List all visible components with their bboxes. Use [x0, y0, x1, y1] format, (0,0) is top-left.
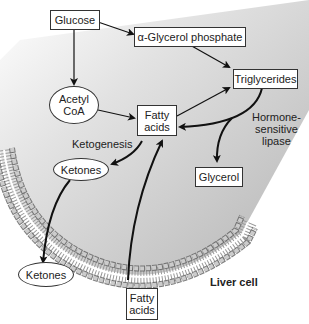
- hsl-line1: Hormone-: [252, 111, 301, 123]
- ketones-inner-node: Ketones: [53, 158, 109, 181]
- triglycerides-node: Triglycerides: [233, 69, 298, 89]
- hormone-sensitive-lipase-label: Hormone- sensitive lipase: [252, 111, 301, 147]
- hsl-line3: lipase: [252, 135, 301, 147]
- fatty-acids-outer-line1: Fatty: [130, 292, 154, 304]
- acetyl-coa-line1: Acetyl: [59, 93, 89, 105]
- glycerol-phosphate-label: α-Glycerol phosphate: [138, 31, 243, 43]
- triglycerides-label: Triglycerides: [235, 73, 297, 85]
- ketogenesis-label: Ketogenesis: [72, 138, 133, 150]
- ketones-outer-node: Ketones: [18, 262, 74, 287]
- glycerol-label: Glycerol: [199, 171, 239, 183]
- glucose-node: Glucose: [50, 10, 100, 30]
- fatty-acids-inner-line2: acids: [144, 121, 170, 133]
- acetyl-coa-line2: CoA: [63, 105, 84, 117]
- ketones-outer-label: Ketones: [26, 269, 66, 281]
- fatty-acids-outer-line2: acids: [129, 304, 155, 316]
- hsl-line2: sensitive: [252, 123, 301, 135]
- acetyl-coa-node: Acetyl CoA: [49, 86, 99, 124]
- glycerol-node: Glycerol: [195, 167, 243, 187]
- fatty-acids-inner-line1: Fatty: [145, 109, 169, 121]
- glycerol-phosphate-node: α-Glycerol phosphate: [134, 27, 246, 47]
- fatty-acids-outer-node: Fatty acids: [126, 288, 158, 320]
- glucose-label: Glucose: [55, 14, 95, 26]
- ketones-inner-label: Ketones: [61, 164, 101, 176]
- fatty-acids-inner-node: Fatty acids: [137, 105, 177, 136]
- liver-cell-label: Liver cell: [210, 276, 258, 288]
